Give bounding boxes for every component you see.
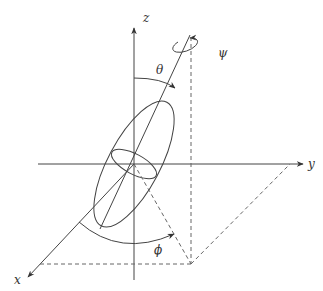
phi-label: ϕ [154, 243, 162, 257]
psi-label: ψ [218, 46, 228, 60]
euler-angle-diagram: z y x θ ϕ ψ [0, 0, 323, 291]
y-axis-label: y [307, 157, 315, 171]
projection-lines [40, 37, 290, 264]
theta-label: θ [156, 63, 164, 77]
phi-arc [79, 222, 174, 244]
x-axis-label: x [14, 273, 21, 287]
x-axis [28, 164, 134, 277]
body-axis [100, 35, 190, 229]
z-axis-label: z [142, 11, 150, 25]
